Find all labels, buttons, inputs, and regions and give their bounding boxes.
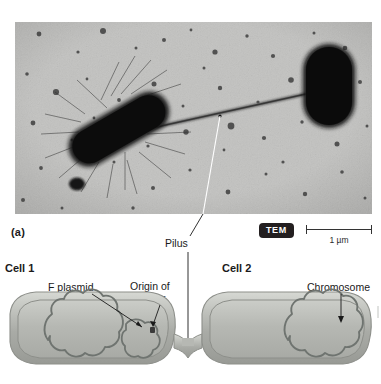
- scale-bar-label: 1 µm: [306, 235, 372, 245]
- scale-bar-cap-left: [306, 225, 307, 234]
- cell-2-body: [202, 292, 371, 364]
- scale-bar: 1 µm: [306, 224, 372, 246]
- label-pilus: Pilus: [165, 237, 188, 249]
- conjugation-diagram: [0, 272, 381, 384]
- scale-bar-cap-right: [371, 225, 372, 234]
- panel-a-label: (a): [11, 226, 25, 238]
- origin-of-transfer-marker: [150, 327, 155, 333]
- cells-illustration: [0, 272, 381, 384]
- tem-badge: TEM: [259, 223, 294, 238]
- tem-micrograph: [15, 22, 372, 214]
- conjugation-bridge: [174, 334, 202, 358]
- scale-bar-line: [306, 229, 372, 230]
- micrograph-image: [15, 22, 372, 214]
- conjugation-figure: (a) TEM 1 µm Pilus Cell 1 Cell 2 F plasm…: [0, 0, 381, 384]
